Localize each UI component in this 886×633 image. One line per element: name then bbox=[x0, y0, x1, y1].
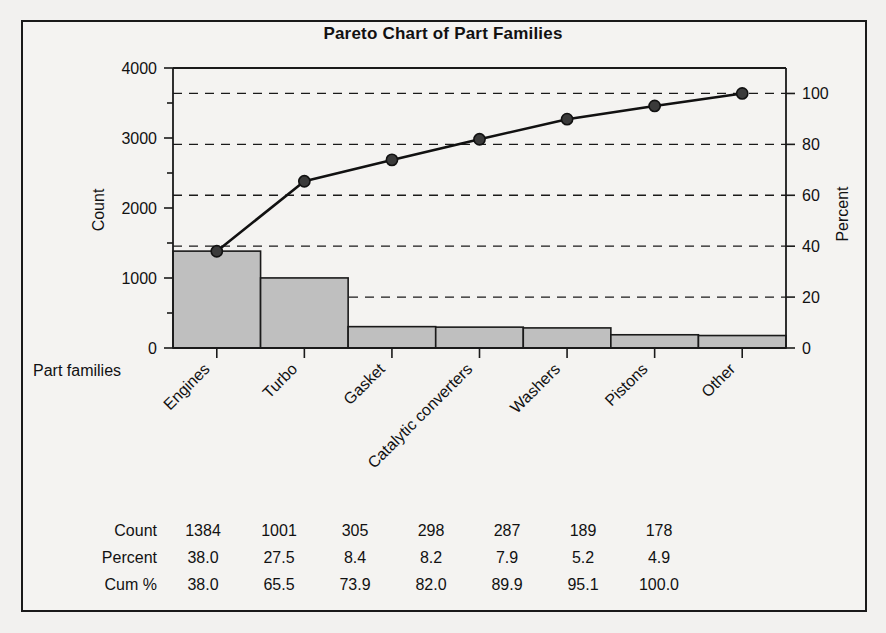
y-tick-label-4000: 4000 bbox=[121, 60, 157, 77]
bars-group bbox=[173, 251, 786, 348]
bar-engines[interactable] bbox=[173, 251, 261, 348]
table-cell-r2-c5: 95.1 bbox=[567, 576, 598, 593]
y2-tick-label-40: 40 bbox=[802, 238, 820, 255]
table-cell-r0-c6: 178 bbox=[646, 522, 673, 539]
table-cell-r2-c3: 82.0 bbox=[415, 576, 446, 593]
y2-axis-title: Percent bbox=[834, 186, 851, 242]
cumulative-marker-1[interactable] bbox=[299, 176, 310, 187]
y2-axis-tick-labels: 020406080100 bbox=[802, 85, 829, 357]
category-label-other: Other bbox=[698, 360, 739, 401]
bar-pistons[interactable] bbox=[611, 335, 699, 348]
y-tick-label-2000: 2000 bbox=[121, 200, 157, 217]
cumulative-marker-4[interactable] bbox=[561, 114, 572, 125]
cumulative-marker-2[interactable] bbox=[386, 154, 397, 165]
cumulative-marker-0[interactable] bbox=[211, 246, 222, 257]
table-cell-r0-c5: 189 bbox=[570, 522, 597, 539]
table-cell-r1-c1: 27.5 bbox=[263, 549, 294, 566]
y2-tick-label-80: 80 bbox=[802, 136, 820, 153]
chart-canvas: 01000200030004000 020406080100 EnginesTu… bbox=[0, 0, 886, 633]
data-table: Count13841001305298287189178Percent38.02… bbox=[102, 522, 679, 593]
pareto-chart-page: Pareto Chart of Part Families 0100020003… bbox=[0, 0, 886, 633]
table-cell-r0-c4: 287 bbox=[494, 522, 521, 539]
y2-axis-ticks bbox=[786, 93, 795, 348]
table-cell-r1-c3: 8.2 bbox=[420, 549, 442, 566]
bar-turbo[interactable] bbox=[261, 278, 349, 348]
table-cell-r1-c5: 5.2 bbox=[572, 549, 594, 566]
table-cell-r1-c4: 7.9 bbox=[496, 549, 518, 566]
category-label-turbo: Turbo bbox=[259, 360, 300, 401]
table-cell-r1-c2: 8.4 bbox=[344, 549, 366, 566]
cumulative-marker-5[interactable] bbox=[649, 100, 660, 111]
category-label-washers: Washers bbox=[507, 360, 563, 416]
y-tick-label-0: 0 bbox=[148, 340, 157, 357]
cumulative-marker-6[interactable] bbox=[737, 88, 748, 99]
table-cell-r2-c4: 89.9 bbox=[491, 576, 522, 593]
cumulative-marker-3[interactable] bbox=[474, 134, 485, 145]
table-cell-r1-c0: 38.0 bbox=[187, 549, 218, 566]
category-label-pistons: Pistons bbox=[602, 360, 651, 409]
y-tick-label-3000: 3000 bbox=[121, 130, 157, 147]
y-axis-title: Count bbox=[90, 188, 107, 231]
table-cell-r0-c3: 298 bbox=[418, 522, 445, 539]
y2-tick-label-60: 60 bbox=[802, 187, 820, 204]
table-row-label-count: Count bbox=[114, 522, 157, 539]
y2-tick-label-20: 20 bbox=[802, 289, 820, 306]
table-row-label-percent: Percent bbox=[102, 549, 158, 566]
y-axis-ticks bbox=[164, 68, 173, 348]
table-cell-r2-c0: 38.0 bbox=[187, 576, 218, 593]
table-cell-r2-c1: 65.5 bbox=[263, 576, 294, 593]
bar-washers[interactable] bbox=[523, 328, 611, 348]
cumulative-line-group bbox=[211, 88, 748, 257]
category-label-gasket: Gasket bbox=[340, 360, 388, 408]
y-tick-label-1000: 1000 bbox=[121, 270, 157, 287]
category-labels-group: EnginesTurboGasketCatalytic convertersWa… bbox=[160, 360, 739, 472]
bar-other[interactable] bbox=[698, 336, 786, 348]
x-axis-ticks bbox=[217, 348, 742, 358]
table-cell-r0-c0: 1384 bbox=[185, 522, 221, 539]
y-axis-tick-labels: 01000200030004000 bbox=[121, 60, 157, 357]
table-cell-r0-c1: 1001 bbox=[261, 522, 297, 539]
y2-tick-label-0: 0 bbox=[802, 340, 811, 357]
table-row-label-cum: Cum % bbox=[105, 576, 157, 593]
category-label-engines: Engines bbox=[160, 360, 213, 413]
x-axis-title: Part families bbox=[33, 362, 121, 379]
gridlines-group bbox=[173, 93, 786, 297]
y2-tick-label-100: 100 bbox=[802, 85, 829, 102]
table-cell-r2-c6: 100.0 bbox=[639, 576, 679, 593]
cumulative-percent-line bbox=[217, 93, 742, 251]
table-cell-r2-c2: 73.9 bbox=[339, 576, 370, 593]
table-cell-r1-c6: 4.9 bbox=[648, 549, 670, 566]
bar-gasket[interactable] bbox=[348, 327, 436, 348]
table-cell-r0-c2: 305 bbox=[342, 522, 369, 539]
bar-catalytic-converters[interactable] bbox=[436, 327, 524, 348]
